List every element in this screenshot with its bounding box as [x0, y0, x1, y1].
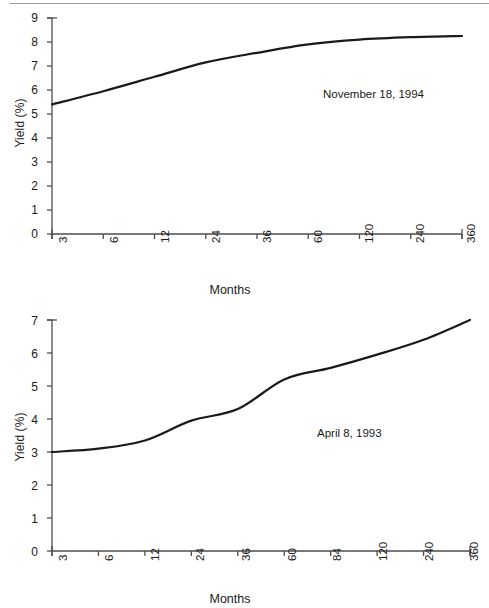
y-tick-label: 8	[22, 35, 38, 49]
chart-annotation-date: November 18, 1994	[323, 88, 424, 100]
chart-plot-area-bottom	[0, 300, 489, 608]
x-tick-label: 360	[465, 224, 477, 243]
y-tick-label: 0	[22, 227, 38, 241]
x-tick-label: 36	[240, 548, 252, 561]
y-tick-label: 0	[22, 545, 38, 559]
chart-annotation-date: April 8, 1993	[317, 427, 382, 439]
x-tick-label: 12	[159, 230, 171, 243]
x-tick-label: 36	[261, 230, 273, 243]
y-tick-label: 2	[22, 479, 38, 493]
series-line	[52, 320, 470, 452]
x-tick-label: 12	[149, 548, 161, 561]
x-tick-label: 24	[194, 548, 206, 561]
y-tick-label: 6	[22, 347, 38, 361]
x-tick-label: 6	[108, 237, 120, 243]
x-tick-label: 120	[363, 224, 375, 243]
y-tick-label: 7	[22, 314, 38, 328]
x-axis-title: Months	[170, 592, 290, 606]
chart-november-1994: 9 8 7 6 5 4 3 2 1 0 Yield (%) 3 6 12 24 …	[0, 0, 489, 300]
x-tick-label: 60	[286, 548, 298, 561]
x-tick-label: 3	[57, 237, 69, 243]
y-tick-label: 5	[22, 380, 38, 394]
chart-april-1993: 7 6 5 4 3 2 1 0 Yield (%) 3 6 12 24 36 6…	[0, 300, 489, 608]
x-tick-label: 6	[103, 555, 115, 561]
y-tick-label: 1	[22, 203, 38, 217]
y-axis-title: Yield (%)	[13, 397, 27, 477]
x-tick-label: 240	[423, 542, 435, 561]
x-axis-title: Months	[170, 283, 290, 297]
y-tick-label: 7	[22, 59, 38, 73]
x-tick-label: 240	[414, 224, 426, 243]
x-tick-label: 24	[210, 230, 222, 243]
y-tick-label: 9	[22, 11, 38, 25]
x-tick-label: 360	[468, 542, 480, 561]
x-tick-label: 3	[57, 555, 69, 561]
y-tick-label: 2	[22, 179, 38, 193]
x-tick-label: 84	[331, 548, 343, 561]
y-axis-title: Yield (%)	[13, 83, 27, 163]
y-tick-label: 1	[22, 512, 38, 526]
x-tick-label: 60	[312, 230, 324, 243]
chart-plot-area-top	[0, 0, 489, 300]
x-tick-label: 120	[377, 542, 389, 561]
